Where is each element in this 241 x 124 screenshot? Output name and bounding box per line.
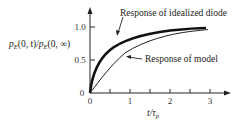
y-axis-label: pE(0, t)/pE(0, ∞): [8, 39, 70, 50]
label-ideal-diode: Response of idealized diode: [120, 8, 227, 18]
x-tick-2: 2: [168, 96, 173, 106]
x-tick-0: 0: [88, 96, 93, 106]
x-axis-arrow-icon: [224, 91, 231, 96]
label-model: Response of model: [145, 54, 218, 64]
x-tick-1: 1: [128, 96, 133, 106]
y-tick-0: 0: [80, 88, 85, 98]
arrow-icon: [116, 30, 120, 36]
y-tick-1.0: 1.0: [74, 22, 86, 32]
x-tick-3: 3: [208, 96, 213, 106]
y-axis-arrow-icon: [88, 7, 93, 14]
chart: 0 0.5 1.0 0 1 2 3 Response of idealized …: [0, 0, 241, 124]
y-tick-0.5: 0.5: [74, 55, 86, 65]
x-axis-label: t/τp: [147, 108, 160, 119]
arrow-icon: [126, 55, 131, 59]
